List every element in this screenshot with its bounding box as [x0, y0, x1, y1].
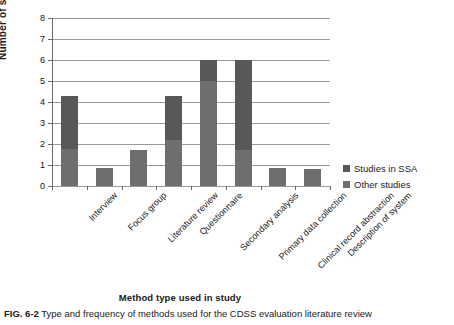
- bar-segment-studies-in-ssa: [165, 96, 182, 140]
- gridline: [52, 60, 330, 61]
- y-axis-tick-label: 7: [40, 35, 45, 44]
- bar-segment-other-studies: [235, 150, 252, 186]
- legend-item-studies-in-ssa: Studies in SSA: [343, 162, 417, 175]
- y-axis-tick: [48, 123, 53, 124]
- bar-description-of-system[interactable]: [304, 169, 321, 186]
- y-axis-tick: [48, 165, 53, 166]
- x-axis-tick: [226, 186, 227, 190]
- y-axis-tick: [48, 81, 53, 82]
- x-axis-tick: [191, 186, 192, 190]
- x-axis-tick: [122, 186, 123, 190]
- bar-segment-other-studies: [269, 168, 286, 186]
- legend-label: Other studies: [354, 178, 411, 191]
- y-axis-tick: [48, 102, 53, 103]
- y-axis-tick: [48, 144, 53, 145]
- bar-interview[interactable]: [61, 96, 78, 186]
- y-axis-tick-label: 2: [40, 140, 45, 149]
- bar-primary-data-collection[interactable]: [235, 60, 252, 186]
- bar-segment-other-studies: [96, 168, 113, 186]
- x-axis-tick: [156, 186, 157, 190]
- y-axis-tick: [48, 60, 53, 61]
- x-tick-label-focus-group: Focus group: [127, 191, 169, 233]
- figure-container: Number of studies 012345678 InterviewFoc…: [0, 0, 454, 325]
- y-axis-tick-label: 5: [40, 77, 45, 86]
- legend-swatch-icon: [343, 181, 350, 188]
- y-axis-tick-label: 8: [40, 14, 45, 23]
- bar-segment-other-studies: [130, 150, 147, 186]
- figure-caption: FIG. 6-2 Type and frequency of methods u…: [4, 308, 452, 320]
- bar-segment-other-studies: [165, 140, 182, 186]
- x-axis-tick: [295, 186, 296, 190]
- bar-segment-studies-in-ssa: [200, 60, 217, 81]
- x-axis-tick: [330, 186, 331, 190]
- gridline: [52, 123, 330, 124]
- gridline: [52, 81, 330, 82]
- y-axis-title: Number of studies: [0, 0, 8, 60]
- chart-legend: Studies in SSA Other studies: [343, 162, 417, 194]
- legend-label: Studies in SSA: [354, 162, 417, 175]
- y-axis-tick-label: 0: [40, 182, 45, 191]
- plot-area: 012345678: [52, 18, 330, 186]
- y-axis-tick-label: 4: [40, 98, 45, 107]
- y-axis-tick: [48, 39, 53, 40]
- figure-caption-text: Type and frequency of methods used for t…: [41, 308, 372, 319]
- bar-focus-group[interactable]: [96, 168, 113, 186]
- x-tick-label-interview: Interview: [88, 191, 120, 223]
- bar-segment-other-studies: [61, 149, 78, 186]
- x-axis-tick: [87, 186, 88, 190]
- bar-segment-other-studies: [304, 169, 321, 186]
- bar-segment-studies-in-ssa: [61, 96, 78, 150]
- gridline: [52, 102, 330, 103]
- legend-item-other-studies: Other studies: [343, 178, 417, 191]
- bar-questionnaire[interactable]: [165, 96, 182, 186]
- bar-literature-review[interactable]: [130, 150, 147, 186]
- bar-clinical-record-abstraction[interactable]: [269, 168, 286, 186]
- gridline: [52, 18, 330, 19]
- gridline: [52, 165, 330, 166]
- y-axis-tick: [48, 18, 53, 19]
- x-axis-tick: [52, 186, 53, 190]
- figure-caption-label: FIG. 6-2: [4, 308, 39, 319]
- x-axis-title: Method type used in study: [0, 292, 360, 303]
- gridline: [52, 144, 330, 145]
- y-axis-tick-label: 6: [40, 56, 45, 65]
- bar-segment-other-studies: [200, 81, 217, 186]
- bar-secondary-analysis[interactable]: [200, 60, 217, 186]
- gridline: [52, 39, 330, 40]
- x-axis-tick: [261, 186, 262, 190]
- legend-swatch-icon: [343, 165, 350, 172]
- bar-segment-studies-in-ssa: [235, 60, 252, 150]
- y-axis-tick-label: 3: [40, 119, 45, 128]
- y-axis-tick-label: 1: [40, 161, 45, 170]
